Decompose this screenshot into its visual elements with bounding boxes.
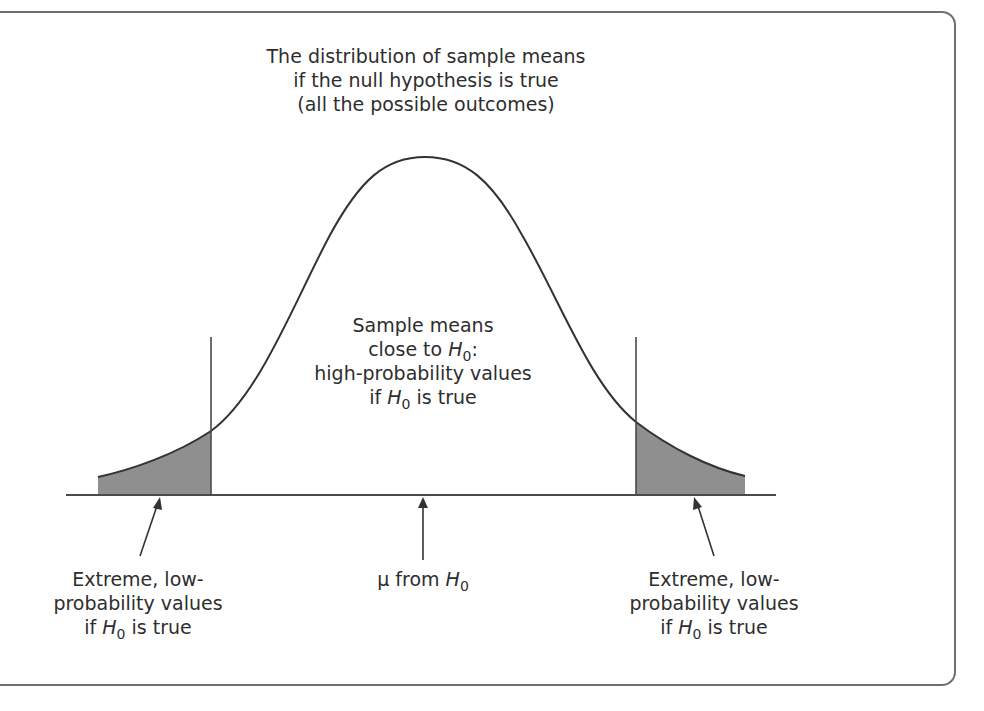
mean-arrow-icon (418, 497, 428, 560)
right-tail-line-2: probability values (604, 591, 824, 615)
right-tail-line-1: Extreme, low- (604, 567, 824, 591)
right-tail-line-3: if H0 is true (604, 615, 824, 639)
left-tail-line-3: if H0 is true (28, 615, 248, 639)
center-label-line-1: Sample means (268, 313, 578, 337)
mean-label-line: μ from H0 (343, 567, 503, 591)
title-line-3: (all the possible outcomes) (230, 92, 622, 116)
mean-label: μ from H0 (343, 567, 503, 591)
left-tail-arrow-icon (140, 497, 162, 556)
title-line-2: if the null hypothesis is true (230, 68, 622, 92)
center-label-line-3: high-probability values (268, 361, 578, 385)
right-tail-arrow-icon (693, 497, 714, 556)
left-tail-line-1: Extreme, low- (28, 567, 248, 591)
center-label-line-4: if H0 is true (268, 385, 578, 409)
center-region-label: Sample means close to H0: high-probabili… (268, 313, 578, 409)
distribution-title: The distribution of sample means if the … (230, 44, 622, 116)
left-tail-label: Extreme, low- probability values if H0 i… (28, 567, 248, 639)
center-label-line-2: close to H0: (268, 337, 578, 361)
left-tail-line-2: probability values (28, 591, 248, 615)
title-line-1: The distribution of sample means (230, 44, 622, 68)
right-tail-label: Extreme, low- probability values if H0 i… (604, 567, 824, 639)
